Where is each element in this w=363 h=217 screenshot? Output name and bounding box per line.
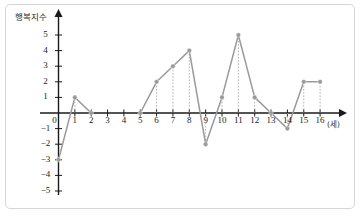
happiness-index-line-chart: [0, 0, 363, 217]
x-tick-label-2: 2: [86, 115, 96, 125]
y-tick-label-4: 4: [38, 45, 54, 55]
data-point-age-12: [252, 95, 257, 100]
y-tick-label-2: 2: [38, 76, 54, 86]
y-tick-label--5: −5: [38, 185, 54, 195]
x-tick-label-16: 16: [313, 115, 327, 125]
data-point-age-11: [236, 33, 241, 38]
data-point-age-14: [285, 126, 290, 131]
y-tick-label-5: 5: [38, 29, 54, 39]
y-tick-label--3: −3: [38, 154, 54, 164]
y-tick-label--1: −1: [38, 123, 54, 133]
data-point-age-9: [203, 142, 208, 147]
series-segment-1: [59, 97, 92, 159]
y-tick-label-3: 3: [38, 60, 54, 70]
data-point-age-16: [318, 80, 323, 85]
x-tick-label-6: 6: [152, 115, 162, 125]
data-point-age-15: [301, 80, 306, 85]
x-tick-label-1: 1: [70, 115, 80, 125]
data-point-age-0: [56, 158, 61, 163]
y-tick-label-1: 1: [38, 91, 54, 101]
x-tick-label-3: 3: [103, 115, 113, 125]
x-tick-label-11: 11: [231, 115, 245, 125]
data-point-age-1: [73, 95, 78, 100]
x-axis-label: (세): [327, 118, 340, 129]
x-tick-label-14: 14: [280, 115, 294, 125]
x-tick-label-13: 13: [264, 115, 278, 125]
data-point-age-8: [187, 48, 192, 53]
x-tick-label-15: 15: [297, 115, 311, 125]
y-tick-label--2: −2: [38, 138, 54, 148]
x-tick-label-5: 5: [135, 115, 145, 125]
data-point-age-6: [154, 80, 159, 85]
data-series: [59, 35, 321, 160]
x-tick-label-12: 12: [248, 115, 262, 125]
x-tick-label-4: 4: [119, 115, 129, 125]
guide-lines: [75, 35, 320, 144]
y-axis-label: 행복지수: [15, 10, 47, 22]
x-tick-label-7: 7: [168, 115, 178, 125]
x-tick-label-8: 8: [184, 115, 194, 125]
data-markers: [56, 33, 322, 162]
data-point-age-7: [171, 64, 176, 69]
y-tick-label--4: −4: [38, 169, 54, 179]
series-segment-2: [140, 35, 320, 144]
data-point-age-10: [220, 95, 225, 100]
x-tick-label-9: 9: [201, 115, 211, 125]
x-tick-label-10: 10: [215, 115, 229, 125]
